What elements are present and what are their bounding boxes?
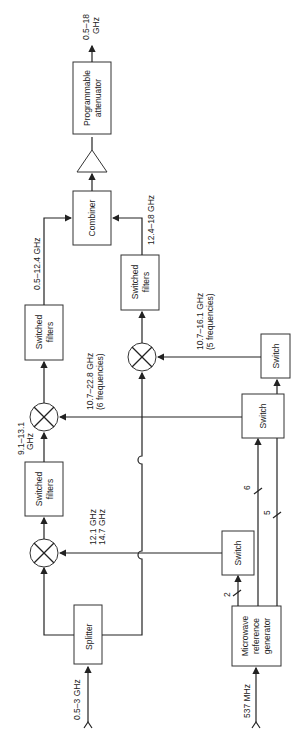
svg-text:Switched: Switched bbox=[130, 264, 140, 299]
svg-text:Combiner: Combiner bbox=[87, 199, 97, 236]
svg-text:filters: filters bbox=[45, 479, 55, 499]
svg-text:2: 2 bbox=[222, 592, 232, 597]
svg-text:Switch: Switch bbox=[258, 403, 268, 428]
svg-text:(6 frequencies): (6 frequencies) bbox=[95, 353, 105, 410]
svg-text:10.7–22.8 GHz: 10.7–22.8 GHz bbox=[85, 353, 95, 410]
svg-text:GHz: GHz bbox=[91, 17, 101, 34]
svg-text:filters: filters bbox=[141, 272, 151, 292]
svg-text:Programmable: Programmable bbox=[82, 70, 92, 126]
switch-1: Switch bbox=[222, 531, 254, 575]
svg-text:Switched: Switched bbox=[34, 471, 44, 506]
svg-text:14.7 GHz: 14.7 GHz bbox=[97, 509, 107, 545]
svg-text:filters: filters bbox=[45, 322, 55, 342]
label-input-rf: 0.5–3 GHz bbox=[72, 679, 82, 720]
switched-filters-2: Switched filters bbox=[25, 305, 63, 360]
svg-text:0.5–18: 0.5–18 bbox=[81, 14, 91, 40]
block-diagram: 0.5–3 GHz Splitter Switched filters 9.1–… bbox=[0, 0, 299, 744]
svg-text:12.4–18 GHz: 12.4–18 GHz bbox=[146, 195, 156, 245]
svg-text:attenuator: attenuator bbox=[93, 79, 103, 117]
switched-filters-3: Switched filters bbox=[121, 255, 159, 310]
programmable-attenuator: Programmable attenuator bbox=[73, 62, 111, 134]
svg-text:Microwave: Microwave bbox=[240, 615, 250, 656]
svg-text:GHz: GHz bbox=[25, 433, 35, 450]
microwave-reference-generator: Microwave reference generator bbox=[232, 606, 281, 666]
switched-filters-1: Switched filters bbox=[25, 462, 63, 516]
switch-3: Switch bbox=[261, 334, 290, 378]
svg-text:Switch: Switch bbox=[233, 540, 243, 565]
svg-text:(5 frequencies): (5 frequencies) bbox=[205, 293, 215, 350]
svg-text:Switch: Switch bbox=[271, 343, 281, 368]
svg-text:10.7–16.1 GHz: 10.7–16.1 GHz bbox=[195, 293, 205, 350]
mixer-1 bbox=[30, 539, 58, 567]
svg-text:6: 6 bbox=[242, 485, 252, 490]
svg-text:5: 5 bbox=[262, 510, 272, 515]
combiner-block: Combiner bbox=[73, 191, 111, 245]
svg-text:generator: generator bbox=[262, 618, 272, 655]
ref-input: 537 MHz bbox=[242, 668, 260, 728]
svg-text:reference: reference bbox=[251, 618, 261, 654]
rf-input: 0.5–3 GHz bbox=[72, 667, 92, 728]
mixer-2 bbox=[30, 403, 58, 431]
splitter-block: Splitter bbox=[74, 605, 102, 664]
amplifier-triangle bbox=[77, 150, 107, 172]
mixer-3 bbox=[128, 343, 156, 371]
svg-text:Switched: Switched bbox=[34, 314, 44, 349]
svg-text:0.5–12.4 GHz: 0.5–12.4 GHz bbox=[32, 238, 42, 290]
svg-text:Splitter: Splitter bbox=[84, 623, 94, 650]
switch-2: Switch bbox=[242, 394, 284, 438]
svg-text:537 MHz: 537 MHz bbox=[242, 684, 252, 718]
